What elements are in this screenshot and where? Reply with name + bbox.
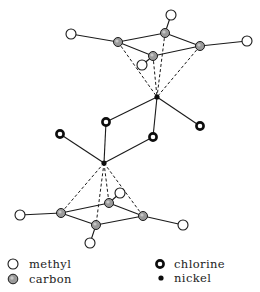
bond-upper-ni-cl-bridge-upper: [106, 97, 157, 122]
bond-top-ring-bd: [165, 33, 200, 46]
dashed-bond-lower-ni-g: [96, 163, 104, 225]
methyl-atom: [66, 29, 76, 39]
top-ring-bonds: [71, 15, 247, 65]
legend-label-carbon: carbon: [29, 272, 72, 286]
bond-top-ring-ab: [118, 33, 165, 42]
nickel-chlorine-bonds: [60, 97, 200, 163]
nickel-legend-icon: [158, 275, 163, 280]
bond-upper-ni-cl-bridge-lower: [153, 97, 157, 137]
bottom-ring-dashed-bonds: [61, 163, 143, 225]
carbon-legend-icon: [8, 274, 18, 284]
bond-bottom-methyl-left: [20, 213, 61, 215]
nickel-atoms: [101, 94, 159, 165]
bond-bottom-methyl-right: [143, 216, 183, 225]
methyl-atom: [242, 36, 252, 46]
legend-item-carbon: carbon: [8, 272, 72, 286]
bond-top-ring-ca: [118, 42, 153, 56]
carbon-atom: [57, 209, 66, 218]
dashed-bond-upper-ni-b: [157, 33, 165, 97]
chlorine-atom: [196, 122, 203, 129]
carbon-atom: [114, 38, 123, 47]
carbon-atom: [161, 29, 170, 38]
chlorine-atom: [102, 118, 109, 125]
bond-top-methyl-right: [200, 41, 247, 46]
legend-label-chlorine: chlorine: [174, 257, 225, 271]
carbon-atom: [149, 52, 158, 61]
chlorine-atoms: [56, 118, 203, 140]
legend-label-methyl: methyl: [29, 257, 71, 271]
legend: methyl carbon chlorine nickel: [8, 257, 225, 286]
legend-item-nickel: nickel: [158, 271, 211, 285]
bond-bottom-ring-hg: [96, 216, 143, 225]
bond-lower-ni-cl-bridge-upper: [104, 122, 106, 163]
methyl-atom: [137, 60, 147, 70]
top-ring-dashed-bonds: [118, 33, 200, 97]
chlorine-legend-icon: [156, 260, 163, 267]
methyl-atom: [115, 188, 125, 198]
bond-upper-ni-cl-terminal-right: [157, 97, 200, 126]
carbon-atom: [105, 199, 114, 208]
legend-label-nickel: nickel: [174, 271, 211, 285]
legend-item-chlorine: chlorine: [156, 257, 225, 271]
bond-lower-ni-cl-terminal-left: [60, 134, 104, 163]
nickel-atom-upper: [154, 94, 159, 99]
methyl-atom: [178, 220, 188, 230]
chlorine-atom: [149, 133, 156, 140]
methyl-atom: [15, 210, 25, 220]
carbon-atom: [139, 212, 148, 221]
methyl-atom: [166, 10, 176, 20]
bond-top-methyl-left: [71, 34, 118, 42]
chlorine-atom: [56, 130, 63, 137]
bottom-ring-bonds: [20, 193, 183, 243]
carbon-atoms: [57, 29, 205, 230]
methyl-atom: [85, 238, 95, 248]
nickel-atom-lower: [101, 160, 106, 165]
carbon-atom: [92, 221, 101, 230]
bond-bottom-ring-ge: [61, 213, 96, 225]
bond-lower-ni-cl-bridge-lower: [104, 137, 153, 163]
dashed-bond-upper-ni-c: [153, 56, 157, 97]
legend-item-methyl: methyl: [8, 257, 71, 271]
methyl-legend-icon: [8, 259, 18, 269]
molecular-structure-diagram: methyl carbon chlorine nickel: [0, 0, 260, 292]
carbon-atom: [196, 42, 205, 51]
